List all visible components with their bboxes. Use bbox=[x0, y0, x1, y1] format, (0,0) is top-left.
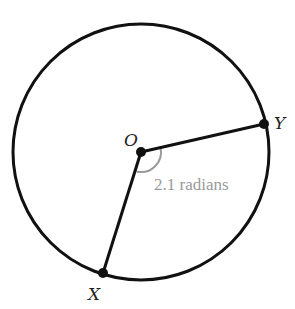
radius-oy bbox=[141, 124, 264, 152]
label-x: X bbox=[86, 284, 101, 304]
circle-diagram: O Y X 2.1 radians bbox=[0, 0, 295, 309]
label-o: O bbox=[124, 130, 138, 150]
point-y bbox=[259, 119, 269, 129]
label-y: Y bbox=[274, 113, 287, 133]
angle-label: 2.1 radians bbox=[154, 175, 229, 194]
radius-ox bbox=[103, 152, 141, 273]
point-x bbox=[98, 268, 108, 278]
